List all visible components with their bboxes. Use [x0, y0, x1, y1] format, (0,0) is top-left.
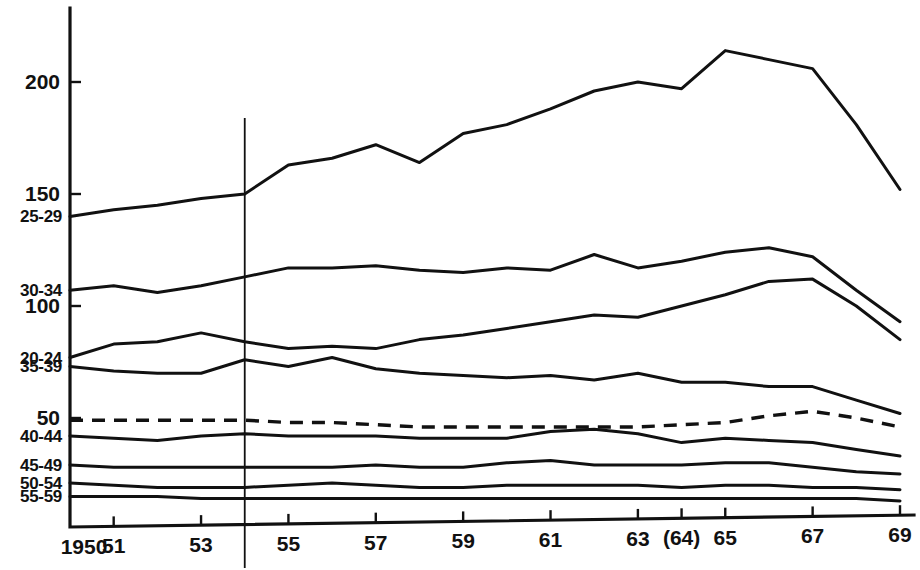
axis-lines [70, 8, 914, 527]
x-tick-label: 69 [888, 523, 911, 546]
line-chart: 20015010050 25-2930-3420-2435-3940-4445-… [0, 0, 920, 570]
y-tick-label: 200 [25, 70, 60, 93]
series-label-30-34: 30-34 [20, 281, 63, 300]
series-line-20-24 [70, 279, 900, 357]
series-line-35-39 [70, 358, 900, 414]
series-line-55-59 [70, 496, 900, 501]
series-line-total [70, 411, 900, 427]
axes [70, 8, 914, 527]
x-tick-label: 57 [364, 531, 387, 554]
series-label-40-44: 40-44 [20, 427, 63, 446]
series-line-40-44 [70, 429, 900, 456]
series-line-30-34 [70, 248, 900, 322]
x-tick-label: 1950 [61, 535, 108, 558]
x-tick-label: 59 [451, 529, 474, 552]
x-tick-label: 51 [102, 534, 126, 557]
series-label-45-49: 45-49 [20, 456, 62, 475]
x-tick-label: 67 [801, 524, 824, 547]
x-tick-label: 63 [626, 527, 649, 550]
y-tick-label: 50 [37, 406, 60, 429]
x-tick-label: 65 [714, 526, 738, 549]
x-tick-label: 53 [189, 533, 212, 556]
series-labels: 25-2930-3420-2435-3940-4445-4950-5455-59 [20, 207, 63, 506]
series-group [70, 51, 900, 501]
y-tick-label: 150 [25, 182, 60, 205]
series-label-35-39: 35-39 [20, 357, 62, 376]
series-line-50-54 [70, 483, 900, 490]
x-tick-label: (64) [663, 526, 700, 549]
series-line-25-29 [70, 51, 900, 217]
x-axis-tick-labels: 195051535557596163(64)656769 [61, 523, 912, 558]
x-tick-label: 55 [277, 532, 301, 555]
series-line-45-49 [70, 461, 900, 474]
series-label-25-29: 25-29 [20, 207, 62, 226]
chart-container: 20015010050 25-2930-3420-2435-3940-4445-… [0, 0, 920, 570]
series-label-55-59: 55-59 [20, 487, 62, 506]
x-tick-label: 61 [539, 528, 563, 551]
